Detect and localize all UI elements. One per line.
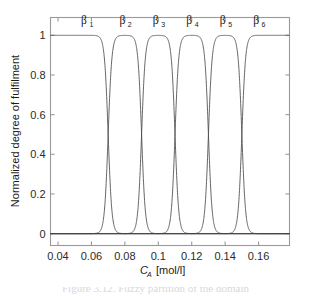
membership-curve xyxy=(51,35,290,233)
membership-curve xyxy=(51,35,290,233)
figure-container: 0.040.060.080.10.120.140.1600.20.40.60.8… xyxy=(0,0,309,297)
membership-curve xyxy=(51,35,290,233)
beta-subscript: 4 xyxy=(195,21,199,28)
x-tick-label: 0.12 xyxy=(181,250,202,262)
x-axis-label-subscript: A xyxy=(146,271,152,278)
beta-subscript: 3 xyxy=(161,21,165,28)
beta-annotation: β5 xyxy=(220,14,232,28)
beta-annotation: β2 xyxy=(119,14,131,28)
x-tick-label: 0.08 xyxy=(114,250,135,262)
y-axis-label: Normalized degree of fulfilment xyxy=(9,55,21,207)
y-tick-label: 0.6 xyxy=(30,109,45,121)
x-tick-label: 0.14 xyxy=(214,250,235,262)
x-tick-label: 0.1 xyxy=(151,250,166,262)
x-tick-label: 0.06 xyxy=(81,250,102,262)
beta-symbol: β xyxy=(81,14,87,27)
beta-subscript: 6 xyxy=(262,21,266,28)
x-tick-label: 0.16 xyxy=(248,250,269,262)
beta-symbol: β xyxy=(186,14,192,27)
beta-annotation: β4 xyxy=(186,14,198,28)
beta-annotation: β6 xyxy=(253,14,265,28)
y-tick-label: 0 xyxy=(39,228,45,240)
beta-subscript: 5 xyxy=(228,21,232,28)
beta-annotation: β1 xyxy=(81,14,93,28)
beta-annotation: β3 xyxy=(153,14,165,28)
figure-caption: Figure 3.12. Fuzzy partition of the doma… xyxy=(62,287,249,294)
beta-symbol: β xyxy=(119,14,125,27)
y-tick-label: 1 xyxy=(39,29,45,41)
x-tick-label: 0.04 xyxy=(47,250,68,262)
y-tick-label: 0.4 xyxy=(30,148,45,160)
caption-strip: Figure 3.12. Fuzzy partition of the doma… xyxy=(0,287,309,297)
beta-symbol: β xyxy=(220,14,226,27)
beta-symbol: β xyxy=(153,14,159,27)
beta-symbol: β xyxy=(253,14,259,27)
x-axis-label: CA[mol/l] xyxy=(140,264,185,278)
membership-curve xyxy=(51,35,290,233)
plot-frame xyxy=(51,18,290,246)
membership-curve xyxy=(51,35,290,233)
y-tick-label: 0.8 xyxy=(30,69,45,81)
y-tick-label: 0.2 xyxy=(30,188,45,200)
x-axis-label-units: [mol/l] xyxy=(156,264,185,276)
beta-subscript: 2 xyxy=(128,21,132,28)
membership-curve xyxy=(51,35,290,233)
membership-function-chart: 0.040.060.080.10.120.140.1600.20.40.60.8… xyxy=(0,0,309,297)
beta-subscript: 1 xyxy=(89,21,93,28)
